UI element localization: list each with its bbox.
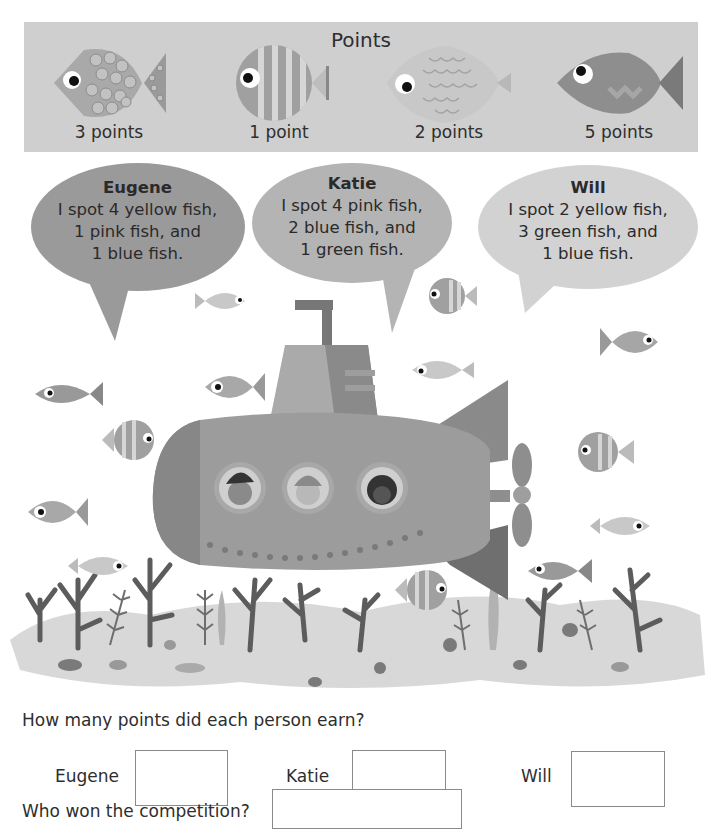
bubble-line: 2 blue fish, and — [252, 217, 452, 239]
bubble-line: 1 pink fish, and — [30, 221, 245, 243]
legend-label: 5 points — [544, 122, 694, 142]
bubble-text: Will I spot 2 yellow fish, 3 green fish,… — [477, 177, 699, 265]
striped-fish-icon — [214, 38, 344, 133]
points-legend-panel: Points 3 points — [24, 22, 698, 152]
underwater-scene-illustration — [0, 275, 711, 695]
answer-box-will[interactable] — [571, 751, 665, 807]
plain-fish-icon — [549, 38, 689, 133]
bubble-line: 1 blue fish. — [30, 243, 245, 265]
speaker-name: Eugene — [30, 177, 245, 199]
legend-label: 1 point — [204, 122, 354, 142]
bubble-line: 1 green fish. — [252, 239, 452, 261]
bubble-line: I spot 2 yellow fish, — [477, 199, 699, 221]
legend-label: 3 points — [34, 122, 184, 142]
porthole-windows — [214, 462, 408, 514]
answer-box-eugene[interactable] — [135, 750, 228, 806]
legend-item-striped-fish: 1 point — [204, 38, 354, 148]
bubble-text: Katie I spot 4 pink fish, 2 blue fish, a… — [252, 173, 452, 261]
answer-box-winner[interactable] — [272, 789, 462, 829]
answer-label-eugene: Eugene — [55, 766, 119, 786]
bubble-line: I spot 4 yellow fish, — [30, 199, 245, 221]
bubble-text: Eugene I spot 4 yellow fish, 1 pink fish… — [30, 177, 245, 265]
legend-label: 2 points — [374, 122, 524, 142]
question-points-earned: How many points did each person earn? — [22, 710, 364, 730]
bubble-line: 1 blue fish. — [477, 243, 699, 265]
scaled-fish-icon — [379, 38, 519, 133]
legend-item-plain-fish: 5 points — [544, 38, 694, 148]
answer-label-katie: Katie — [286, 766, 329, 786]
sea-floor — [10, 596, 705, 688]
legend-item-spotted-fish: 3 points — [34, 38, 184, 148]
legend-item-scaled-fish: 2 points — [374, 38, 524, 148]
bubble-line: I spot 4 pink fish, — [252, 195, 452, 217]
speaker-name: Katie — [252, 173, 452, 195]
bubble-line: 3 green fish, and — [477, 221, 699, 243]
question-winner: Who won the competition? — [22, 801, 250, 821]
spotted-fish-icon — [44, 38, 174, 128]
submarine — [153, 300, 532, 600]
answer-label-will: Will — [521, 766, 552, 786]
speaker-name: Will — [477, 177, 699, 199]
